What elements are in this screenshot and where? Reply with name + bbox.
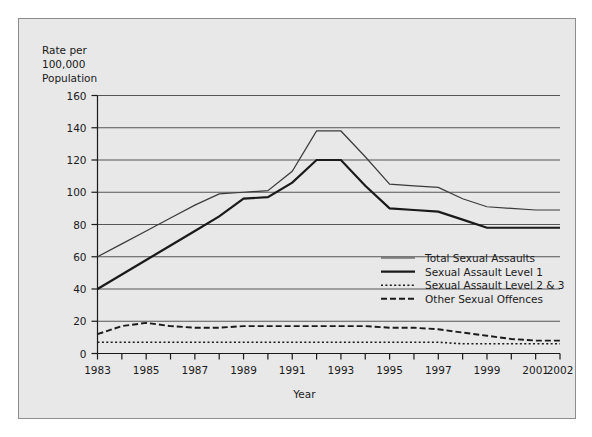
legend-item-label: Other Sexual Offences: [425, 293, 543, 305]
legend-item-label: Total Sexual Assaults: [424, 252, 535, 264]
y-tick-labels: 020406080100120140160: [66, 90, 86, 360]
x-tick-label: 1995: [376, 364, 403, 376]
x-tick-label: 1999: [474, 364, 501, 376]
y-tick-label: 40: [73, 283, 86, 295]
y-axis: [92, 96, 98, 354]
x-axis-title: Year: [292, 388, 316, 400]
x-axis-title-label: Year: [292, 388, 316, 400]
y-tick-label: 20: [73, 315, 86, 327]
y-axis-title-line: Population: [42, 72, 97, 84]
y-axis-title: Rate per100,000Population: [42, 44, 97, 84]
y-tick-label: 100: [66, 186, 86, 198]
chart-screenshot: Rate per100,000Population 02040608010012…: [0, 0, 592, 437]
data-series: [98, 131, 561, 344]
chart-legend: Total Sexual AssaultsSexual Assault Leve…: [381, 252, 564, 305]
x-tick-labels: 1983198519871989199119931995199719992001…: [84, 364, 573, 376]
y-tick-label: 0: [80, 348, 87, 360]
legend-item-label: Sexual Assault Level 1: [425, 266, 543, 278]
series-line: [98, 131, 561, 257]
x-tick-label: 1991: [279, 364, 306, 376]
y-axis-title-line: Rate per: [42, 44, 88, 56]
x-tick-label: 1983: [84, 364, 111, 376]
y-tick-label: 60: [73, 251, 86, 263]
x-tick-label: 1993: [328, 364, 355, 376]
legend-item-label: Sexual Assault Level 2 & 3: [425, 279, 564, 291]
y-tick-label: 80: [73, 219, 86, 231]
y-tick-label: 140: [66, 122, 86, 134]
x-tick-label: 1985: [133, 364, 160, 376]
x-tick-label: 1989: [230, 364, 257, 376]
x-tick-label: 2002: [547, 364, 574, 376]
x-tick-label: 1987: [182, 364, 209, 376]
x-tick-label: 1997: [425, 364, 452, 376]
y-tick-label: 160: [66, 90, 86, 102]
series-line: [98, 323, 561, 341]
line-chart: Rate per100,000Population 02040608010012…: [0, 0, 592, 437]
series-line: [98, 342, 561, 344]
x-tick-label: 2001: [522, 364, 549, 376]
y-tick-label: 120: [66, 154, 86, 166]
y-axis-title-line: 100,000: [42, 58, 85, 70]
x-axis: [98, 354, 561, 360]
